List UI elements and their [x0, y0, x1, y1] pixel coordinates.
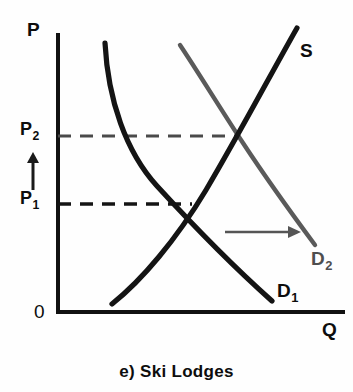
price-increase-arrow-head — [27, 152, 39, 163]
origin-label: 0 — [34, 302, 45, 321]
demand-curve-d1 — [105, 43, 272, 301]
d1-base: D — [277, 280, 291, 301]
s-base: S — [300, 40, 313, 61]
price-level-label-p1: P1 — [20, 189, 39, 211]
figure-root: P Q 0 P2 P1 S D1 D2 e) Ski Lodges — [0, 0, 353, 392]
y-axis-label: P — [27, 20, 40, 39]
p1-subscript: 1 — [33, 198, 40, 212]
figure-caption: e) Ski Lodges — [0, 362, 353, 382]
p1-base: P — [20, 188, 32, 208]
p2-base: P — [20, 119, 32, 139]
demand-curve-d2 — [180, 45, 315, 245]
x-axis-label: Q — [322, 320, 337, 339]
d2-base: D — [311, 248, 325, 269]
p2-subscript: 2 — [33, 129, 40, 143]
d1-subscript: 1 — [291, 290, 298, 305]
d2-subscript: 2 — [325, 258, 332, 273]
supply-curve-label: S — [300, 41, 313, 60]
price-level-label-p2: P2 — [20, 120, 39, 142]
demand-shift-arrow-head — [288, 226, 301, 238]
demand-curve-label-d1: D1 — [277, 281, 298, 305]
demand-curve-label-d2: D2 — [311, 249, 332, 273]
